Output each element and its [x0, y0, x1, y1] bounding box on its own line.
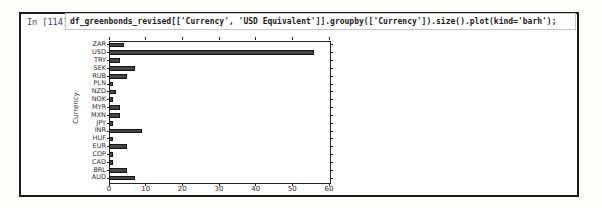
ytick-mark — [107, 52, 110, 53]
ytick-mark — [107, 123, 110, 124]
xtick-mark — [145, 37, 146, 40]
code-input-area[interactable]: df_greenbonds_revised[['Currency', 'USD … — [65, 13, 576, 30]
ytick-label-aud: AUD — [76, 174, 106, 181]
xtick-mark — [219, 183, 220, 186]
xtick-label-20: 20 — [172, 185, 192, 193]
chart-axes — [109, 41, 331, 184]
bar-eur — [109, 144, 127, 149]
bar-myr — [109, 105, 120, 110]
ytick-label-cop: COP — [76, 151, 106, 158]
xtick-mark — [255, 183, 256, 186]
xtick-mark — [145, 183, 146, 186]
ytick-mark — [107, 146, 110, 147]
xtick-mark — [182, 183, 183, 186]
ytick-mark — [330, 170, 333, 171]
ytick-mark — [330, 123, 333, 124]
xtick-label-40: 40 — [246, 185, 266, 193]
ytick-mark — [330, 68, 333, 69]
xtick-mark — [329, 37, 330, 40]
bar-brl — [109, 168, 127, 173]
ytick-mark — [330, 162, 333, 163]
y-axis-label: Currency — [72, 86, 80, 130]
bar-cop — [109, 152, 113, 157]
ytick-mark — [107, 44, 110, 45]
ytick-mark — [330, 115, 333, 116]
ytick-mark — [107, 107, 110, 108]
xtick-mark — [329, 183, 330, 186]
bar-sek — [109, 66, 135, 71]
ytick-mark — [330, 44, 333, 45]
ytick-label-try: TRY — [76, 57, 106, 64]
bar-usd — [109, 50, 314, 55]
xtick-label-10: 10 — [136, 185, 156, 193]
bar-jpy — [109, 121, 113, 126]
ytick-mark — [107, 76, 110, 77]
bar-rub — [109, 74, 127, 79]
ytick-mark — [107, 162, 110, 163]
ytick-mark — [330, 146, 333, 147]
xtick-label-30: 30 — [209, 185, 229, 193]
xtick-mark — [109, 37, 110, 40]
ytick-label-cad: CAD — [76, 159, 106, 166]
ytick-mark — [107, 154, 110, 155]
ytick-mark — [330, 107, 333, 108]
bar-inr — [109, 129, 142, 134]
bar-aud — [109, 176, 135, 181]
ytick-mark — [330, 60, 333, 61]
xtick-label-50: 50 — [282, 185, 302, 193]
bar-mxn — [109, 113, 120, 118]
code-line: df_greenbonds_revised[['Currency', 'USD … — [66, 14, 575, 29]
ytick-mark — [107, 138, 110, 139]
xtick-label-0: 0 — [99, 185, 119, 193]
ytick-mark — [107, 68, 110, 69]
xtick-mark — [219, 37, 220, 40]
xtick-mark — [292, 37, 293, 40]
bar-pln — [109, 82, 113, 87]
ytick-mark — [330, 84, 333, 85]
ytick-mark — [330, 76, 333, 77]
ytick-mark — [330, 178, 333, 179]
bar-huf — [109, 137, 113, 142]
bar-try — [109, 58, 120, 63]
bar-nok — [109, 97, 113, 102]
ytick-mark — [107, 99, 110, 100]
xtick-mark — [182, 37, 183, 40]
ytick-mark — [107, 131, 110, 132]
xtick-label-60: 60 — [319, 185, 339, 193]
ytick-mark — [330, 131, 333, 132]
ytick-mark — [107, 60, 110, 61]
notebook-screenshot: { "notebook": { "prompt": "In [114]:", "… — [0, 0, 602, 208]
ytick-mark — [107, 178, 110, 179]
xtick-mark — [255, 37, 256, 40]
ytick-mark — [107, 84, 110, 85]
xtick-mark — [292, 183, 293, 186]
ytick-mark — [107, 91, 110, 92]
ytick-label-sek: SEK — [76, 65, 106, 72]
ytick-mark — [330, 99, 333, 100]
ytick-mark — [330, 138, 333, 139]
bar-nzd — [109, 90, 116, 95]
ytick-mark — [107, 170, 110, 171]
bar-zar — [109, 43, 124, 48]
ytick-mark — [330, 52, 333, 53]
ytick-mark — [330, 154, 333, 155]
bar-cad — [109, 160, 113, 165]
ytick-mark — [330, 91, 333, 92]
ytick-mark — [107, 115, 110, 116]
xtick-mark — [109, 183, 110, 186]
ytick-label-myr: MYR — [76, 104, 106, 111]
ytick-label-mxn: MXN — [76, 112, 106, 119]
